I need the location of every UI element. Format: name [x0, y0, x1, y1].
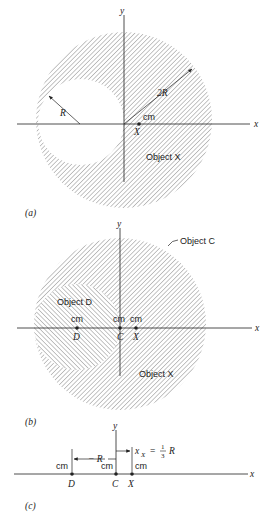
panel-c: x y − R x X = 1 3 R cm cm cm D C X (c): [14, 421, 255, 512]
cm-d-label: cm: [71, 314, 83, 324]
object-x-label: Object X: [146, 152, 181, 162]
cm-point-x: [137, 122, 141, 126]
cm-point-d: [75, 326, 79, 330]
svg-text:X: X: [140, 451, 146, 459]
cm-label: cm: [143, 112, 155, 122]
cm-point-x: [134, 326, 138, 330]
cm-c-label: cm: [113, 314, 125, 324]
svg-text:=: =: [150, 446, 155, 456]
object-c-label: Object C: [180, 236, 216, 246]
radius-r-label: R: [59, 108, 66, 118]
cm-point-c: [118, 326, 122, 330]
cm-point-d: [70, 472, 74, 476]
object-c-leader: [168, 240, 178, 246]
panel-a: x y R 2R cm X Object X (a): [17, 6, 259, 219]
cm-x-label: cm: [135, 461, 147, 471]
point-c-label: C: [112, 479, 119, 489]
point-c-label: C: [117, 332, 124, 342]
object-x-label: Object X: [139, 369, 174, 379]
center-of-mass-figure: x y R 2R cm X Object X (a) x y Object C …: [0, 0, 277, 520]
svg-text:x: x: [134, 446, 140, 456]
y-axis-label: y: [112, 421, 118, 431]
panel-a-label: (a): [25, 208, 36, 219]
cm-x-label: cm: [130, 314, 142, 324]
x-axis-label: x: [253, 119, 259, 129]
cm-point-x: [130, 472, 134, 476]
panel-b: x y Object C Object D Object X cm cm cm …: [17, 219, 260, 428]
svg-text:1: 1: [161, 443, 165, 451]
x-axis-label: x: [249, 469, 255, 479]
cm-d-label: cm: [56, 461, 68, 471]
point-x-label: X: [133, 127, 141, 137]
svg-text:3: 3: [161, 452, 165, 460]
panel-c-label: (c): [25, 501, 36, 512]
point-x-label: X: [132, 332, 140, 342]
point-d-label: D: [72, 332, 80, 342]
point-d-label: D: [67, 479, 75, 489]
object-d-label: Object D: [57, 297, 93, 307]
cm-c-label: cm: [101, 461, 113, 471]
svg-text:R: R: [168, 446, 175, 456]
y-axis-label: y: [119, 6, 125, 16]
radius-2r-label: 2R: [157, 88, 168, 98]
point-x-label: X: [127, 479, 135, 489]
panel-b-label: (b): [25, 417, 36, 428]
cm-point-c: [114, 472, 118, 476]
x-axis-label: x: [254, 323, 260, 333]
distance-x-label: x X = 1 3 R: [134, 443, 175, 460]
y-axis-label: y: [116, 219, 122, 229]
